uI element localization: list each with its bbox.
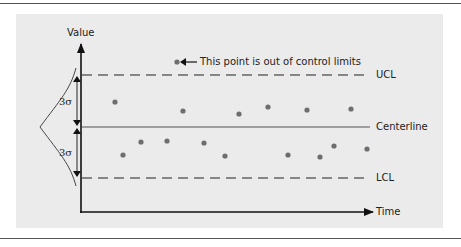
annotation-label: This point is out of control limits (200, 56, 361, 67)
sigma-upper-label: 3σ (59, 96, 72, 107)
x-axis-label: Time (376, 206, 400, 217)
lcl-label: LCL (376, 172, 394, 183)
ucl-label: UCL (376, 69, 396, 80)
y-axis-label: Value (67, 27, 94, 38)
sigma-lower-label: 3σ (59, 147, 72, 158)
bottom-rule (0, 238, 461, 239)
normal-distribution-curve (40, 68, 76, 186)
centerline-label: Centerline (376, 121, 428, 132)
